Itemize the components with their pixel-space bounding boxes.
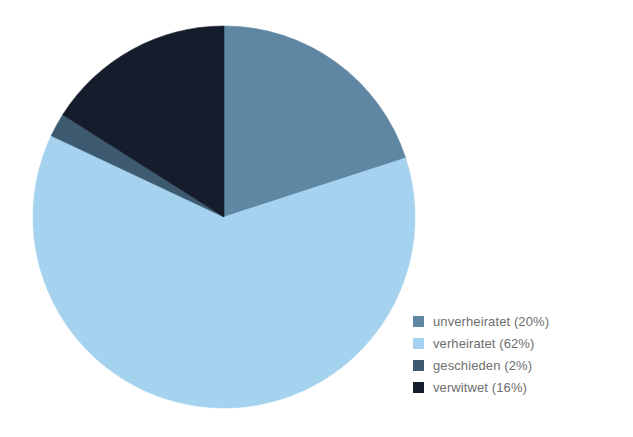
chart-legend: unverheiratet (20%) verheiratet (62%) ge… (413, 310, 613, 398)
legend-item-label: verheiratet (62%) (433, 336, 534, 351)
pie-slice-group (33, 26, 415, 408)
legend-item-geschieden[interactable]: geschieden (2%) (413, 354, 613, 376)
pie-chart-figure: unverheiratet (20%) verheiratet (62%) ge… (0, 0, 633, 437)
legend-swatch-icon (413, 316, 424, 327)
legend-item-unverheiratet[interactable]: unverheiratet (20%) (413, 310, 613, 332)
legend-swatch-icon (413, 338, 424, 349)
legend-item-verheiratet[interactable]: verheiratet (62%) (413, 332, 613, 354)
legend-item-label: geschieden (2%) (433, 358, 532, 373)
legend-swatch-icon (413, 360, 424, 371)
legend-item-label: verwitwet (16%) (433, 380, 527, 395)
legend-swatch-icon (413, 382, 424, 393)
legend-item-label: unverheiratet (20%) (433, 314, 549, 329)
legend-item-verwitwet[interactable]: verwitwet (16%) (413, 376, 613, 398)
